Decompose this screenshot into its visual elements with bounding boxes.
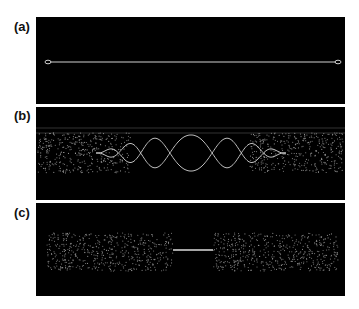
panel-c-label: (c) <box>14 205 30 220</box>
panel-a-label: (a) <box>14 19 30 34</box>
panel-b <box>36 107 345 200</box>
panel-c <box>36 203 345 296</box>
panel-a-strand <box>36 17 345 104</box>
panel-a <box>36 17 345 104</box>
panel-b-strands <box>36 107 345 200</box>
panel-c-blocks <box>36 203 345 296</box>
panel-b-label: (b) <box>14 108 31 123</box>
